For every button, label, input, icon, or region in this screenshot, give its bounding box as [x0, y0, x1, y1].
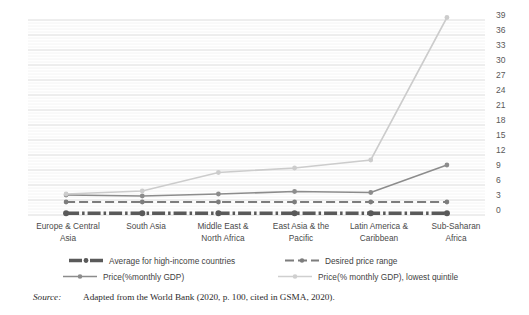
data-point — [216, 192, 221, 197]
source-label: Source: — [33, 292, 61, 302]
x-axis-label-south-asia: South Asia — [104, 221, 188, 233]
data-point — [139, 210, 145, 216]
x-axis-label-line1: Europe & Central — [22, 221, 114, 233]
y-axis-tick-30: 30 — [496, 56, 505, 65]
y-axis-tick-21: 21 — [496, 101, 505, 110]
data-point — [215, 210, 221, 216]
x-axis-label-line2: Caribbean — [334, 233, 424, 245]
data-point — [292, 210, 298, 216]
legend-label-average-high-income: Average for high-income countries — [109, 256, 235, 266]
y-axis-tick-12: 12 — [496, 146, 505, 155]
y-axis-tick-15: 15 — [496, 131, 505, 140]
x-axis-labels: Europe & Central Asia South Asia Middle … — [0, 219, 529, 253]
y-axis-tick-39: 39 — [496, 11, 505, 20]
x-axis-label-line2: North Africa — [178, 233, 268, 245]
chart-legend: Average for high-income countries Desire… — [0, 255, 529, 289]
data-point — [140, 189, 145, 194]
x-axis-label-middle-east-north-africa: Middle East & North Africa — [178, 221, 268, 244]
x-axis-label-europe-central-asia: Europe & Central Asia — [22, 221, 114, 244]
data-point — [216, 200, 221, 205]
x-axis-label-line2: Africa — [414, 233, 498, 245]
legend-swatch-average-high-income — [68, 255, 104, 266]
legend-swatch-price-monthly-gdp-lowest-quintile — [277, 271, 313, 282]
legend-item-price-monthly-gdp-lowest-quintile[interactable]: Price(% monthly GDP), lowest quintile — [277, 271, 458, 282]
data-point — [292, 189, 297, 194]
source-note: Source: Adapted from the World Bank (202… — [0, 292, 529, 312]
y-axis-tick-6: 6 — [496, 176, 501, 185]
data-point — [368, 190, 373, 195]
data-point — [64, 200, 69, 205]
legend-swatch-price-monthly-gdp — [62, 271, 98, 282]
x-axis-label-line2: Asia — [22, 233, 114, 245]
y-axis-tick-9: 9 — [496, 161, 501, 170]
x-axis-label-line1: Latin America & — [334, 221, 424, 233]
legend-item-average-high-income[interactable]: Average for high-income countries — [68, 255, 235, 266]
data-point — [368, 158, 373, 163]
legend-item-desired-price-range[interactable]: Desired price range — [284, 255, 397, 266]
series-2 — [64, 163, 450, 199]
x-axis-label-line2: Pacific — [256, 233, 346, 245]
legend-label-price-monthly-gdp-lowest-quintile: Price(% monthly GDP), lowest quintile — [318, 272, 458, 282]
legend-swatch-desired-price-range — [284, 255, 320, 266]
figure-container: 39 36 33 30 27 24 21 18 15 12 9 6 3 0 Eu… — [0, 0, 529, 315]
y-axis-tick-33: 33 — [496, 41, 505, 50]
chart-plot-area: 39 36 33 30 27 24 21 18 15 12 9 6 3 0 — [0, 0, 529, 218]
y-axis-tick-27: 27 — [496, 71, 505, 80]
data-point — [445, 163, 450, 168]
data-point — [444, 210, 450, 216]
data-point — [140, 200, 145, 205]
y-axis-tick-3: 3 — [496, 191, 501, 200]
x-axis-label-line1: Sub-Saharan — [414, 221, 498, 233]
x-axis-label-latin-america-caribbean: Latin America & Caribbean — [334, 221, 424, 244]
data-point — [368, 210, 374, 216]
x-axis-label-line1: Middle East & — [178, 221, 268, 233]
data-point — [216, 170, 221, 175]
x-axis-label-sub-saharan-africa: Sub-Saharan Africa — [414, 221, 498, 244]
x-axis-label-line1: South Asia — [104, 221, 188, 233]
source-text: Adapted from the World Bank (2020, p. 10… — [83, 292, 335, 302]
series-3 — [64, 15, 450, 196]
chart-svg — [0, 0, 529, 218]
y-axis-tick-24: 24 — [496, 86, 505, 95]
data-point — [64, 192, 69, 197]
data-point — [445, 200, 450, 205]
legend-label-price-monthly-gdp: Price(%monthly GDP) — [103, 272, 184, 282]
x-axis-label-east-asia-pacific: East Asia & the Pacific — [256, 221, 346, 244]
data-point — [445, 15, 450, 20]
data-point — [140, 194, 145, 199]
data-point — [292, 166, 297, 171]
y-axis-tick-0: 0 — [496, 206, 501, 215]
y-axis-tick-18: 18 — [496, 116, 505, 125]
legend-item-price-monthly-gdp[interactable]: Price(%monthly GDP) — [62, 271, 184, 282]
x-axis-label-line1: East Asia & the — [256, 221, 346, 233]
y-axis-tick-36: 36 — [496, 26, 505, 35]
gridlines — [28, 20, 485, 215]
data-point — [292, 200, 297, 205]
data-point — [368, 200, 373, 205]
legend-label-desired-price-range: Desired price range — [325, 256, 397, 266]
data-point — [63, 210, 69, 216]
